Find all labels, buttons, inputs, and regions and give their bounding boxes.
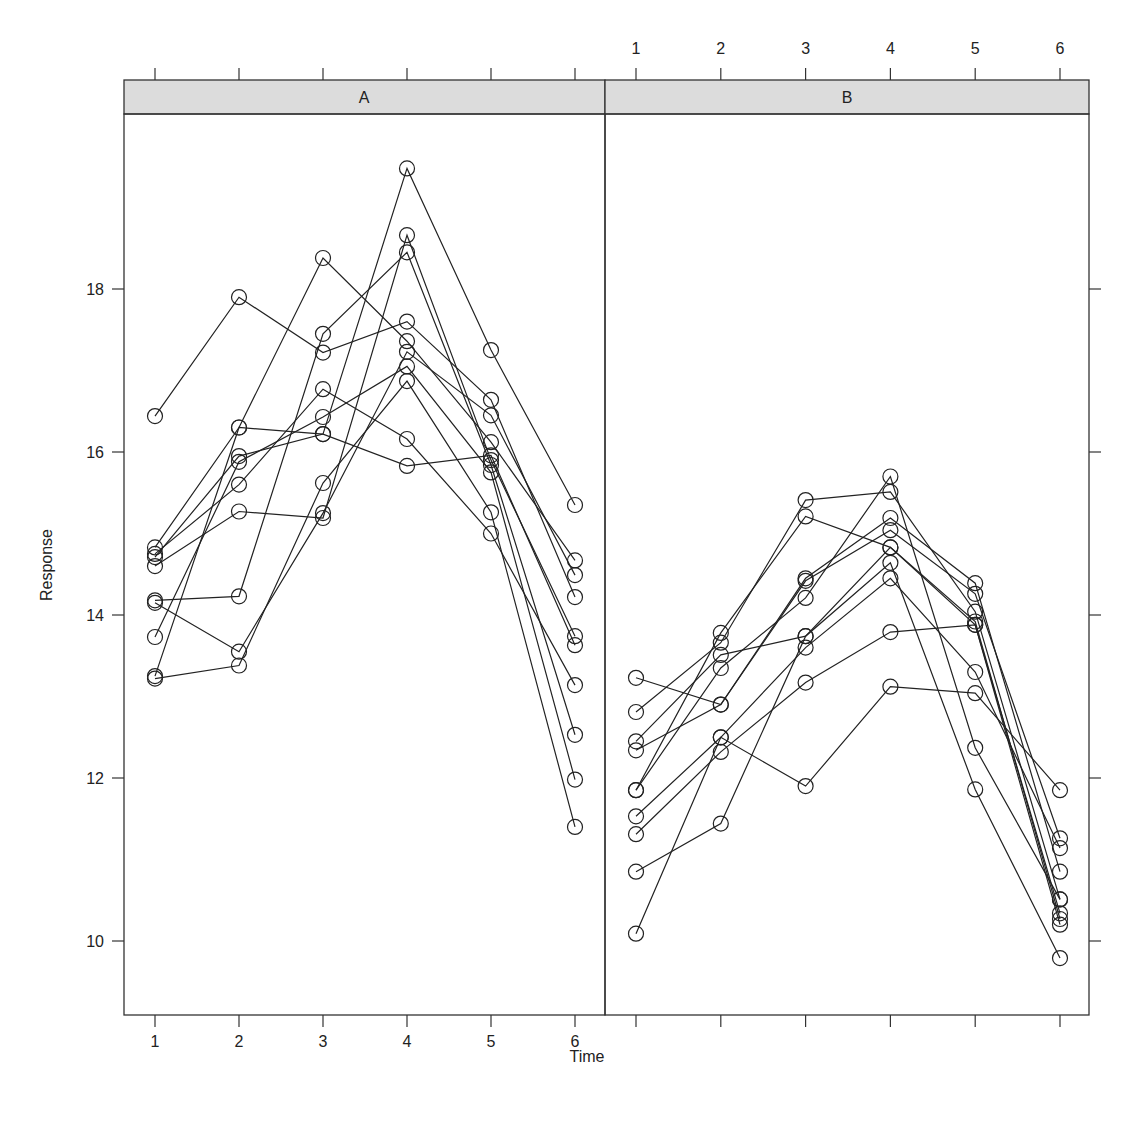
figure-caption [40,1104,1100,1124]
x-axis-title: Time [570,1048,605,1065]
series-line [636,563,1060,958]
series-line [636,547,1060,913]
series-line [155,235,575,636]
series-line [636,625,1060,925]
series-A5 [148,245,583,743]
x-tick-label-top: 3 [801,40,810,57]
x-tick-label-top: 2 [716,40,725,57]
x-tick-label-bottom: 3 [319,1033,328,1050]
x-tick-label-bottom: 5 [487,1033,496,1050]
y-axis-title: Response [38,529,55,601]
series-B4 [629,511,1068,880]
x-tick-label-bottom: 1 [151,1033,160,1050]
series-B3 [629,540,1068,921]
panel-frame-b [605,114,1089,1015]
x-tick-label-top: 4 [886,40,895,57]
x-tick-label-bottom: 2 [235,1033,244,1050]
series-A8 [148,420,583,684]
y-tick-label: 16 [86,444,104,461]
series-line [155,297,575,597]
series-A2 [148,251,583,568]
panel-frame-a [124,114,605,1015]
strip-label-b: B [842,89,853,106]
series-line [636,578,1060,848]
series-line [155,168,575,557]
series-group-a [148,161,583,835]
y-tick-label: 12 [86,770,104,787]
series-line [636,687,1060,934]
series-group-b [629,469,1068,966]
axes: 1234561234561012141618 [86,40,1101,1050]
x-tick-label-top: 6 [1056,40,1065,57]
series-A9 [148,374,583,835]
x-tick-label-bottom: 4 [403,1033,412,1050]
series-line [155,366,575,779]
x-tick-label-top: 1 [632,40,641,57]
series-line [155,252,575,735]
y-tick-label: 18 [86,281,104,298]
y-tick-label: 14 [86,607,104,624]
series-line [155,258,575,560]
series-A1 [148,290,583,605]
strip-label-a: A [359,89,370,106]
series-A10 [148,382,583,693]
series-B9 [629,555,1068,965]
x-tick-label-top: 5 [971,40,980,57]
panel-a: A [124,80,605,1015]
lattice-line-chart: A B 1234561234561012141618 Time Response [0,0,1136,1124]
series-A7 [148,359,583,787]
panel-b: B [605,80,1089,1015]
y-tick-label: 10 [86,933,104,950]
